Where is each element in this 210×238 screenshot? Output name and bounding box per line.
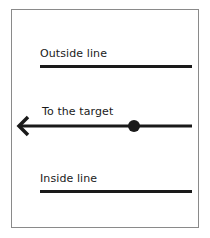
inside-line: [40, 190, 192, 193]
target-arrow: [0, 0, 210, 238]
target-dot-icon: [128, 120, 140, 132]
inside-line-label: Inside line: [40, 172, 97, 185]
